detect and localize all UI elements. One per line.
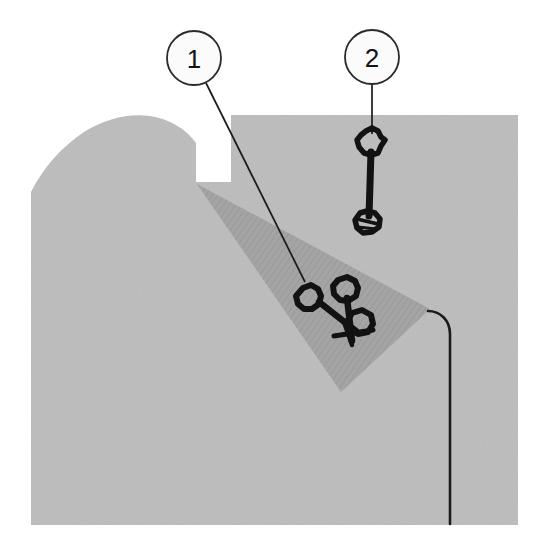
technical-illustration: 1 2 xyxy=(0,0,558,547)
callout-1[interactable]: 1 xyxy=(167,31,221,85)
callout-2-label: 2 xyxy=(365,43,379,73)
upper-fastener-shank xyxy=(369,152,371,216)
callout-2[interactable]: 2 xyxy=(345,30,399,84)
upper-fastener-nut-detail2 xyxy=(358,227,376,229)
callout-1-label: 1 xyxy=(187,44,201,74)
figure-root: 1 2 xyxy=(0,0,558,547)
